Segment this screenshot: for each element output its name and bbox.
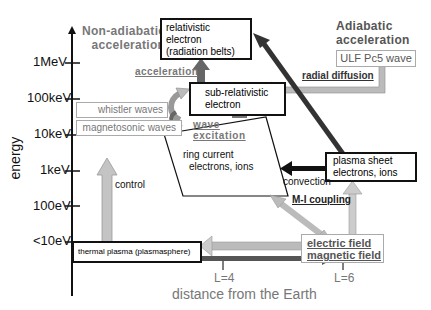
sub-relativistic-line1: sub-relativistic: [205, 87, 284, 99]
mi-coupling-label: M-I coupling: [292, 194, 351, 206]
non-adiabatic-heading: Non-adiabatic acceleration: [82, 25, 165, 53]
adiabatic-heading: Adiabatic acceleration: [336, 20, 410, 48]
relativistic-line2: electron: [166, 34, 246, 46]
electric-magnetic-field-box: electric field magnetic field: [301, 234, 384, 263]
ring-current-line1: ring current: [183, 149, 253, 161]
relativistic-line3: (radiation belts): [166, 46, 246, 58]
relativistic-line1: relativistic: [166, 22, 246, 34]
whistler-waves-box: whistler waves: [76, 102, 168, 118]
ulf-pc5-wave-box: ULF Pc5 wave: [336, 50, 416, 67]
non-adiabatic-line2: acceleration: [82, 39, 165, 53]
sub-relativistic-line2: electron: [205, 99, 284, 111]
sub-relativistic-electron-box: sub-relativistic electron: [189, 82, 286, 116]
y-tick-label-10kev: 10keV: [34, 127, 71, 142]
convection-arrow-shaft: [290, 166, 325, 171]
control-label: control: [115, 179, 145, 191]
y-axis-label: energy: [7, 137, 23, 180]
magnetosonic-waves-box: magnetosonic waves: [76, 120, 182, 136]
plasma-sheet-line1: plasma sheet: [333, 155, 415, 167]
relativistic-electron-box: relativistic electron (radiation belts): [160, 18, 252, 60]
thermal-plasma-box: thermal plasma (plasmasphere): [72, 241, 202, 263]
x-tick-label-l6: L=6: [334, 272, 354, 286]
y-tick-label-100kev: 100keV: [27, 91, 71, 106]
y-tick-label-1kev: 1keV: [40, 163, 70, 178]
wave-excitation-label: wave excitation: [193, 119, 246, 141]
y-tick-label-10ev: <10eV: [33, 234, 71, 249]
wave-label-line2: excitation: [193, 130, 246, 141]
radial-diffusion-label: radial diffusion: [302, 70, 374, 82]
magnetic-field-label: magnetic field: [307, 249, 383, 261]
y-tick-label-1mev: 1MeV: [33, 55, 67, 70]
non-adiabatic-line1: Non-adiabatic: [82, 25, 165, 39]
x-axis-label: distance from the Earth: [172, 286, 317, 302]
mi-coupling-arrow: [280, 203, 322, 235]
wave-label-line1: wave: [193, 119, 246, 130]
y-axis-arrowhead: [68, 26, 76, 34]
plasma-sheet-box: plasma sheet electrons, ions: [325, 152, 417, 182]
adiabatic-line2: acceleration: [336, 34, 410, 48]
adiabatic-line1: Adiabatic: [336, 20, 410, 34]
y-tick-label-100ev: 100eV: [33, 199, 71, 214]
control-arrow: [97, 158, 117, 246]
electric-field-label: electric field: [307, 237, 383, 249]
x-tick-label-l4: L=4: [214, 272, 234, 286]
acceleration-label: acceleration: [135, 66, 198, 78]
ring-current-line2: electrons, ions: [183, 161, 253, 173]
convection-label: convection: [283, 176, 331, 188]
field-to-plasma-arrowhead: [343, 181, 362, 194]
field-to-thermal-arrow-shaft: [210, 242, 305, 250]
ring-current-label: ring current electrons, ions: [183, 149, 253, 173]
plasma-sheet-line2: electrons, ions: [333, 167, 415, 179]
